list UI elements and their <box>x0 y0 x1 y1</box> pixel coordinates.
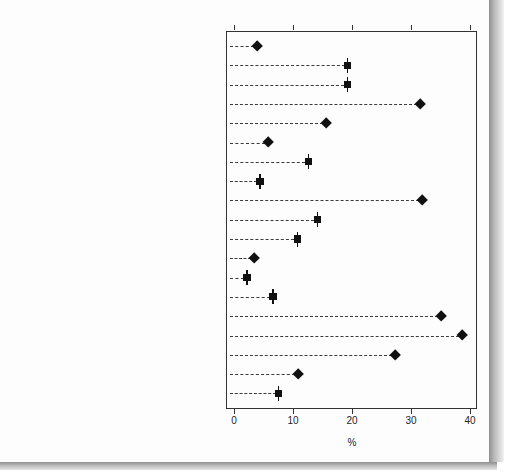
x-tick-label: 30 <box>405 415 416 426</box>
category-row: Health care and social assistance <box>0 346 489 365</box>
category-row: Mining <box>0 56 489 75</box>
leader-line <box>230 355 392 356</box>
leader-line <box>230 181 257 182</box>
scan-edge-bottom <box>0 462 504 470</box>
x-tick-top <box>293 25 294 30</box>
x-tick-label: 20 <box>346 415 357 426</box>
marker-glyph-square <box>344 62 351 69</box>
x-tick-bottom <box>293 409 294 414</box>
category-row: Information media and telecommunications <box>0 211 489 230</box>
leader-line <box>230 239 294 240</box>
marker-glyph-diamond <box>414 98 426 110</box>
marker-glyph-diamond <box>251 40 263 52</box>
leader-line <box>230 278 244 279</box>
x-tick-top <box>470 25 471 30</box>
marker-glyph-square <box>269 293 276 300</box>
x-tick-label: 10 <box>287 415 298 426</box>
marker-glyph-diamond <box>248 252 260 264</box>
marker-glyph-diamond <box>320 117 332 129</box>
x-tick-label: 40 <box>464 415 475 426</box>
x-tick-label: 0 <box>231 415 237 426</box>
x-tick-bottom <box>411 409 412 414</box>
marker-glyph-square <box>305 158 312 165</box>
scan-edge-right <box>489 0 504 468</box>
x-tick-bottom <box>352 409 353 414</box>
category-row: Public administration and safety <box>0 307 489 326</box>
marker-glyph-square <box>344 81 351 88</box>
x-tick-bottom <box>470 409 471 414</box>
category-row: Agriculture, forestry and fishing <box>0 37 489 56</box>
marker-glyph-diamond <box>389 349 401 361</box>
leader-line <box>230 220 314 221</box>
marker-glyph-square <box>256 178 263 185</box>
category-row: Accommodation and food services <box>0 172 489 191</box>
category-row: Arts and recreation services <box>0 365 489 384</box>
category-row: Education and training <box>0 327 489 346</box>
category-row: Administrative and support services <box>0 288 489 307</box>
dot-plot-chart: Agriculture, forestry and fishingMiningM… <box>0 0 489 463</box>
marker-glyph-square <box>314 216 321 223</box>
marker-glyph-square <box>243 274 250 281</box>
leader-line <box>230 374 295 375</box>
marker-glyph-diamond <box>416 194 428 206</box>
marker-glyph-diamond <box>262 137 274 149</box>
leader-line <box>230 200 419 201</box>
leader-line <box>230 297 270 298</box>
leader-line <box>230 85 344 86</box>
leader-line <box>230 336 459 337</box>
leader-line <box>230 162 305 163</box>
leader-line <box>230 65 345 66</box>
x-tick-top <box>411 25 412 30</box>
marker-glyph-square <box>275 390 282 397</box>
leader-line <box>230 104 417 105</box>
category-row: Wholesale trade <box>0 134 489 153</box>
marker-glyph-diamond <box>456 330 468 342</box>
category-row: Electricity, gas, water and waste servic… <box>0 95 489 114</box>
leader-line <box>230 316 438 317</box>
category-row: Financial and insurance services <box>0 230 489 249</box>
marker-glyph-square <box>294 235 301 242</box>
x-tick-top <box>234 25 235 30</box>
category-row: Manufacturing <box>0 76 489 95</box>
x-axis-title: % <box>348 437 357 448</box>
category-row: Rental, hiring and real estate services <box>0 249 489 268</box>
x-tick-top <box>352 25 353 30</box>
marker-glyph-diamond <box>435 310 447 322</box>
x-tick-bottom <box>234 409 235 414</box>
category-row: Construction <box>0 114 489 133</box>
leader-line <box>230 393 276 394</box>
leader-line <box>230 143 265 144</box>
scan-corner <box>497 462 509 473</box>
category-row: Professional, scientific and technical s… <box>0 269 489 288</box>
category-row: Retail trade <box>0 153 489 172</box>
leader-line <box>230 123 323 124</box>
marker-glyph-diamond <box>292 368 304 380</box>
category-row: Other services <box>0 384 489 403</box>
category-row: Transport, postal and warehousing <box>0 191 489 210</box>
